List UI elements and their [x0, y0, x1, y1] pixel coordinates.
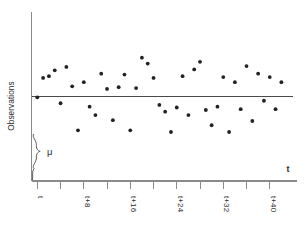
data-point	[187, 113, 191, 117]
x-axis-tick-label: t+16	[129, 196, 138, 213]
data-point	[146, 62, 150, 66]
data-point	[99, 72, 103, 76]
data-point	[123, 73, 127, 77]
data-point	[140, 56, 144, 60]
scatter-chart-figure: Observations μ t tt+8t+16t+24t+32t+40	[0, 0, 307, 231]
data-point	[245, 64, 249, 68]
x-axis-tick-label: t+24	[176, 196, 185, 213]
x-axis-tick-label: t+40	[269, 196, 278, 213]
data-point	[117, 85, 121, 89]
data-point	[279, 80, 283, 84]
data-point	[192, 68, 196, 72]
x-axis-tick-label: t+8	[83, 196, 92, 208]
data-point	[35, 95, 39, 99]
data-point	[239, 107, 243, 111]
data-point	[268, 75, 272, 79]
data-point	[59, 101, 63, 105]
data-point	[76, 128, 80, 132]
mu-brace-icon	[32, 134, 40, 180]
data-point	[274, 107, 278, 111]
data-point	[221, 75, 225, 79]
data-point	[256, 72, 260, 76]
data-point	[64, 65, 68, 69]
data-point	[88, 105, 92, 109]
chart-canvas: Observations μ t tt+8t+16t+24t+32t+40	[0, 0, 307, 231]
data-point	[181, 74, 185, 78]
data-point	[53, 68, 57, 72]
data-point	[94, 113, 98, 117]
data-point	[250, 119, 254, 123]
data-point	[134, 86, 138, 90]
x-axis-tick-label-group: tt+8t+16t+24t+32t+40	[36, 196, 277, 213]
data-point	[163, 110, 167, 114]
x-axis-title: t	[287, 164, 290, 174]
data-point	[233, 80, 237, 84]
data-point	[198, 60, 202, 64]
data-point	[210, 123, 214, 127]
data-point	[128, 128, 132, 132]
mu-annotation-label: μ	[47, 146, 52, 157]
data-point	[227, 130, 231, 134]
data-point	[169, 130, 173, 134]
data-point	[152, 76, 156, 80]
data-point	[157, 103, 161, 107]
x-axis-tick-group	[37, 181, 269, 189]
data-point	[175, 106, 179, 110]
data-point	[82, 80, 86, 84]
data-point	[70, 84, 74, 88]
x-axis-tick-label: t	[36, 196, 45, 199]
data-point	[111, 118, 115, 122]
data-point	[105, 87, 109, 91]
y-axis-title: Observations	[7, 81, 16, 130]
data-point	[47, 74, 51, 78]
data-point	[216, 105, 220, 109]
x-axis-tick-label: t+32	[222, 196, 231, 213]
data-point	[262, 99, 266, 103]
data-point	[204, 108, 208, 112]
data-point	[41, 76, 45, 80]
data-point-group	[35, 56, 283, 134]
